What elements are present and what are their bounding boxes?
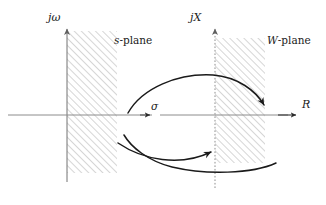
s-plane-label-suffix: -plane [119,34,152,46]
s-plane-hatched-regions [67,31,117,173]
sigma-axis-label: σ [151,101,158,112]
w-plane-label-prefix: W [267,34,278,46]
mapping-figure: jω jX s-plane W-plane σ R [0,0,326,205]
j-omega-axis-label: jω [48,12,60,23]
s-plane-label: s-plane [114,35,152,46]
figure-canvas [0,0,326,205]
s-plane-hatch-upper [67,31,117,115]
w-plane-hatch [215,38,265,163]
r-axis-label: R [302,99,310,110]
s-plane-hatch-lower [67,115,117,173]
jx-axis-label: jX [190,12,201,23]
w-plane-label: W-plane [267,35,311,46]
w-plane-label-suffix: -plane [278,34,311,46]
w-plane-hatched-regions [215,38,265,163]
